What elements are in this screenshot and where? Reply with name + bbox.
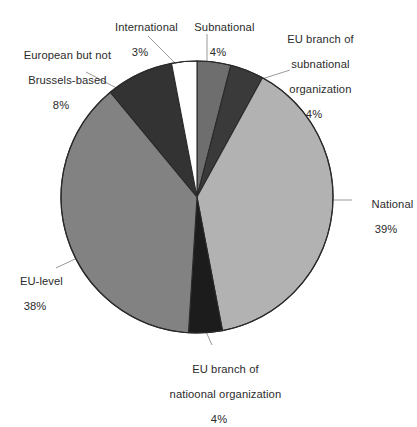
pie-label-eu-branch-subnational-line3: organization [289,83,351,95]
pie-label-european-not-brussels-value: 8% [2,99,120,112]
pie-label-eu-branch-subnational-line1: EU branch of [287,33,354,45]
pie-label-eu-level: EU-level 38% [2,262,68,338]
pie-label-eu-level-value: 38% [2,300,68,313]
pie-label-eu-level-text: EU-level [20,275,63,287]
pie-label-eu-branch-national: EU branch of natioonal organization 4% [148,350,290,427]
pie-label-european-not-brussels-line2: Brussels-based [28,74,107,86]
pie-label-eu-branch-national-line1: EU branch of [192,363,259,375]
pie-label-eu-branch-subnational-value: 4% [262,108,366,121]
pie-label-european-not-brussels-line1: European but not [24,49,111,61]
pie-label-european-not-brussels: European but not Brussels-based 8% [2,36,120,137]
pie-label-eu-branch-subnational: EU branch of subnational organization 4% [262,20,366,146]
pie-label-subnational: Subnational 4% [170,8,266,84]
pie-label-national-value: 39% [356,223,416,236]
pie-label-national: National 39% [356,185,416,261]
pie-label-eu-branch-subnational-line2: subnational [291,58,349,70]
pie-label-eu-branch-national-line2: natioonal organization [170,388,282,400]
pie-label-subnational-text: Subnational [194,21,254,33]
pie-label-subnational-value: 4% [170,46,266,59]
pie-label-eu-branch-national-value: 4% [148,413,290,426]
pie-label-international-text: International [115,21,178,33]
pie-label-national-text: National [371,198,413,210]
